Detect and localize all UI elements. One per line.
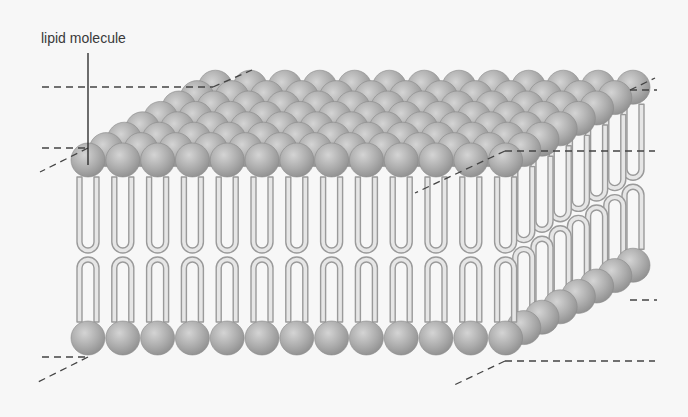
bottom-side-heads [507,248,650,344]
top-front-head [349,143,383,177]
front-tail-lower [425,257,447,322]
bottom-head [210,321,244,355]
top-front-head [106,143,140,177]
front-tail-lower [495,257,517,322]
front-tail-upper [216,177,238,253]
front-tail-lower [286,257,308,322]
top-front-head [210,143,244,177]
top-front-head [489,143,523,177]
bottom-head [141,321,175,355]
top-surface-heads [71,70,650,177]
top-front-head [175,143,209,177]
front-tail-lower [112,257,134,322]
top-front-head [280,143,314,177]
front-tail-upper [390,177,412,253]
front-tail-upper [77,177,99,253]
bottom-head [106,321,140,355]
front-tail-upper [425,177,447,253]
bottom-head [489,321,523,355]
front-tail-upper [355,177,377,253]
top-front-head [315,143,349,177]
front-tail-upper [495,177,517,253]
front-tail-upper [251,177,273,253]
front-tail-upper [321,177,343,253]
bottom-head [71,321,105,355]
lipid-bilayer-diagram [0,0,688,417]
front-tail-lower [390,257,412,322]
bottom-head [175,321,209,355]
front-tail-lower [251,257,273,322]
front-tail-lower [181,257,203,322]
bottom-head [349,321,383,355]
top-front-head [141,143,175,177]
front-tail-lower [77,257,99,322]
front-tail-upper [460,177,482,253]
bottom-head [384,321,418,355]
bottom-head [245,321,279,355]
dashed-line-bottom-front-diagonal [452,361,505,386]
front-tails [77,177,517,322]
dashed-line-bottom-left-diagonal [38,357,88,382]
top-front-head [419,143,453,177]
bottom-front-heads [71,321,523,355]
front-tail-lower [321,257,343,322]
bottom-head [419,321,453,355]
front-tail-lower [355,257,377,322]
front-tail-lower [460,257,482,322]
front-tail-upper [181,177,203,253]
bottom-head [454,321,488,355]
label-lipid-molecule: lipid molecule [41,30,126,46]
front-tail-upper [147,177,169,253]
top-front-head [245,143,279,177]
front-tail-upper [112,177,134,253]
bottom-head [315,321,349,355]
front-tail-upper [286,177,308,253]
front-tail-lower [216,257,238,322]
top-front-head [384,143,418,177]
front-tail-lower [147,257,169,322]
bottom-head [280,321,314,355]
